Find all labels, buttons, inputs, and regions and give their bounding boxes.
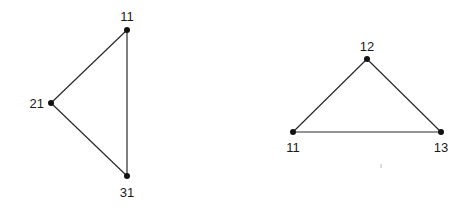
node-label-13: 13 [434, 140, 448, 155]
node-13 [438, 129, 444, 135]
edge-12-11 [293, 59, 367, 132]
node-21 [48, 100, 54, 106]
right-triangle-graph: 12 11 13 [286, 39, 448, 155]
diagram-canvas: 11 21 31 12 11 13 [0, 0, 470, 207]
node-label-31: 31 [120, 185, 134, 200]
node-label-11-right: 11 [286, 140, 300, 155]
node-31 [124, 173, 130, 179]
node-label-12: 12 [360, 39, 374, 54]
node-12 [364, 56, 370, 62]
node-label-11: 11 [120, 9, 134, 24]
edge-11-21 [51, 30, 127, 103]
edge-12-13 [367, 59, 441, 132]
left-triangle-graph: 11 21 31 [30, 9, 135, 200]
node-label-21: 21 [30, 96, 44, 111]
edge-21-31 [51, 103, 127, 176]
node-11 [124, 27, 130, 33]
node-11-right [290, 129, 296, 135]
